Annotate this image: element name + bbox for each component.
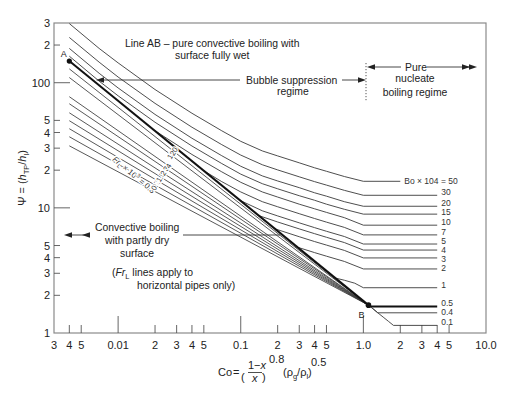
x-title-density-ratio: (ρg/ρl)	[283, 366, 312, 381]
arrow-left-icon	[367, 64, 375, 69]
fr-note-annotation: (FrL lines apply to horizontal pipes onl…	[112, 267, 235, 291]
y-tick-label: 4	[44, 252, 50, 264]
x-title-close-paren: )	[262, 371, 266, 383]
x-tick-label: 3	[296, 339, 302, 351]
bo-curve-2	[69, 48, 437, 206]
y-tick-label: 2	[44, 39, 50, 51]
convective-label-line3: surface	[120, 248, 154, 259]
y-tick-label: 5	[44, 114, 50, 126]
bubble-suppression-label-line1: Bubble suppression	[246, 75, 337, 86]
froude-number-labels: FrL × 103 = 0.3 0.711.52341020	[110, 146, 180, 197]
bo-curve-6	[241, 201, 437, 244]
x-tick-label: 0.1	[233, 339, 248, 351]
point-a-marker	[67, 58, 72, 63]
y-tick-label: 2	[44, 289, 50, 301]
bo-curve-4	[155, 131, 437, 225]
y-tick-label: 1	[44, 327, 50, 339]
x-title-numerator: 1−x	[248, 359, 267, 371]
bo-curve-7	[259, 216, 438, 251]
x-title-slash-rho: /ρ	[297, 366, 306, 378]
x-tick-label: 4	[189, 339, 195, 351]
arrow-right-icon	[358, 77, 366, 82]
bo-label-3: 15	[441, 207, 451, 217]
pure-nucleate-label-line1: Pure	[405, 62, 427, 73]
y-title-symbol: Ψ	[16, 197, 28, 206]
x-title-num-prefix: 1−	[248, 359, 261, 371]
bo-label-10: 1	[441, 280, 446, 290]
y-tick-label: 5	[44, 240, 50, 252]
point-a-label: A	[61, 49, 67, 59]
x-tick-label: 2	[152, 339, 158, 351]
x-axis-title: Co = ( 1−x x ) 0.8 (ρg/ρl) 0.5	[218, 353, 326, 384]
x-tick-label: 5	[323, 339, 329, 351]
fr-note-line2: horizontal pipes only)	[137, 280, 235, 291]
x-tick-label: 5	[78, 339, 84, 351]
y-tick-label: 3	[44, 17, 50, 29]
y-tick-label: 3	[44, 267, 50, 279]
x-title-rho-open: (ρ	[283, 366, 293, 378]
x-tick-label: 1.0	[356, 339, 371, 351]
bo-label-4: 10	[441, 217, 451, 227]
bo-curve-10	[336, 278, 437, 288]
bo-label-12: 0.4	[441, 307, 453, 317]
arrow-left-icon	[64, 232, 72, 237]
x-tick-label: 3	[51, 339, 57, 351]
pure-nucleate-label-line3: boiling regime	[383, 87, 448, 98]
x-tick-label: 2	[275, 339, 281, 351]
bo-label-1: 30	[441, 187, 451, 197]
y-tick-label: 2	[44, 164, 50, 176]
fr-note-rest: lines apply to	[129, 267, 193, 278]
x-tick-label: 2	[397, 339, 403, 351]
x-tick-label: 4	[434, 339, 440, 351]
x-tick-label: 4	[66, 339, 72, 351]
y-tick-label: 4	[44, 127, 50, 139]
x-title-eq: =	[233, 366, 239, 378]
bo-curve-11	[368, 305, 437, 306]
line-ab-note-line1: Line AB – pure convective boiling with	[125, 38, 300, 49]
x-tick-label: 10.0	[475, 339, 496, 351]
y-title-eq: = (	[16, 180, 28, 197]
x-title-exponent-2: 0.5	[311, 356, 326, 368]
x-tick-label: 5	[446, 339, 452, 351]
bo-label-9: 2	[441, 263, 446, 273]
bo-label-13: 0.1	[441, 317, 453, 327]
y-tick-label: 10	[38, 202, 50, 214]
fr-note-line1: (FrL lines apply to	[112, 267, 193, 281]
fr-note-symbol: Fr	[115, 267, 125, 278]
convective-label-line1: Convective boiling	[95, 222, 180, 233]
pure-nucleate-annotation: Pure nucleate boiling regime	[367, 62, 477, 98]
y-title-close: )	[16, 150, 28, 154]
x-title-num-var: x	[260, 359, 267, 371]
point-b-marker	[366, 302, 372, 308]
y-axis-ticks: 3210054321054321	[32, 17, 70, 339]
x-tick-label: 3	[174, 339, 180, 351]
point-b-label: B	[358, 310, 364, 320]
boiling-number-labels: Bo × 104 = 50302015107543210.50.40.1	[404, 176, 458, 327]
bo-label-0: Bo × 104 = 50	[404, 176, 458, 186]
pure-nucleate-label-line2: nucleate	[395, 73, 435, 84]
x-tick-label: 5	[201, 339, 207, 351]
x-title-lhs: Co	[218, 366, 232, 378]
arrow-right-icon	[469, 64, 477, 69]
x-title-denominator: x	[251, 372, 258, 384]
y-tick-label: 3	[44, 142, 50, 154]
line-ab-annotation: Line AB – pure convective boiling with s…	[125, 38, 300, 61]
convective-label-line2: with partly dry	[104, 235, 170, 246]
y-title-h1-sub: TP	[22, 165, 31, 175]
x-title-open-paren: (	[241, 371, 245, 383]
y-tick-label: 100	[32, 77, 50, 89]
bubble-suppression-label-line2: regime	[277, 86, 309, 97]
x-tick-label: 4	[312, 339, 318, 351]
x-tick-label: 3	[419, 339, 425, 351]
x-title-exponent-1: 0.8	[269, 353, 284, 365]
arrow-right-icon	[462, 64, 470, 69]
y-axis-title: Ψ = (hTP/hl)	[16, 150, 31, 206]
bo-curve-13	[368, 305, 437, 325]
x-tick-label: 0.01	[107, 339, 128, 351]
bubble-suppression-annotation: Bubble suppression regime	[96, 63, 366, 101]
fr-line-2	[69, 129, 368, 305]
shah-boiling-chart: 3450.0123450.123451.0234510.0 3210054321…	[0, 0, 510, 394]
line-ab-note-line2: surface fully wet	[175, 50, 250, 61]
arrow-left-icon	[82, 232, 90, 237]
bo-curve-8	[275, 229, 437, 258]
